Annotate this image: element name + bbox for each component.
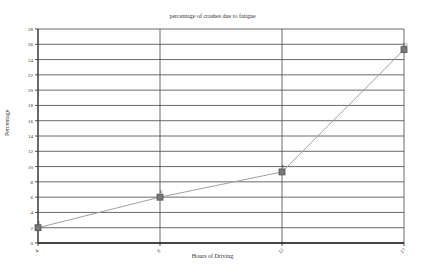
y-tick-label: 2 — [31, 226, 34, 231]
plot-area: 024681012141618202224262848121726925 — [0, 0, 425, 273]
y-tick-label: 20 — [28, 88, 34, 93]
y-tick-label: 16 — [28, 119, 34, 124]
data-point-marker — [157, 194, 163, 200]
y-tick-label: 28 — [28, 27, 34, 32]
y-tick-label: 10 — [28, 165, 34, 170]
data-label: 6 — [160, 189, 163, 194]
y-tick-label: 8 — [31, 180, 34, 185]
y-tick-label: 18 — [28, 103, 34, 108]
y-tick-label: 4 — [31, 210, 34, 215]
x-axis-label: Hours of Driving — [0, 253, 425, 259]
data-point-marker — [35, 225, 41, 231]
data-label: 25 — [403, 42, 409, 47]
y-tick-label: 12 — [28, 149, 34, 154]
y-tick-label: 26 — [28, 42, 34, 47]
y-tick-label: 24 — [28, 58, 34, 63]
line-chart: percentage of crashes due to fatigue 024… — [0, 0, 425, 273]
data-point-marker — [401, 47, 407, 53]
data-point-marker — [279, 169, 285, 175]
y-tick-label: 0 — [31, 241, 34, 246]
chart-title: percentage of crashes due to fatigue — [0, 13, 425, 19]
y-tick-label: 14 — [28, 134, 34, 139]
data-label: 2 — [38, 220, 41, 225]
y-axis-label: Percentage — [4, 110, 10, 136]
series-line — [38, 50, 404, 228]
y-tick-label: 6 — [31, 195, 34, 200]
y-tick-label: 22 — [28, 73, 34, 78]
